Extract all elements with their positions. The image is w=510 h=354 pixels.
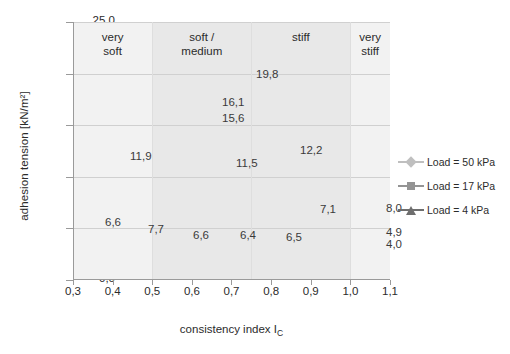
zone-divider-0 — [152, 22, 153, 280]
y-tick-mark-3 — [66, 125, 73, 126]
legend-swatch — [405, 156, 416, 167]
zone-label-2: stiff — [251, 30, 350, 44]
zone-label-3: very stiff — [350, 30, 390, 58]
legend-marker-diamond-icon — [398, 156, 424, 168]
zone-divider-1 — [251, 22, 252, 280]
y-axis-title: adhesion tension [kN/m²] — [18, 36, 30, 276]
x-tick-mark-2 — [152, 280, 153, 285]
legend-item-0[interactable]: Load = 50 kPa — [398, 150, 510, 174]
data-label-13: 6,4 — [240, 229, 256, 241]
x-tick-label-2: 0,5 — [132, 285, 172, 297]
data-label-1: 16,1 — [222, 96, 244, 108]
x-tick-label-3: 0,6 — [172, 285, 212, 297]
gridline-y-5 — [73, 22, 390, 23]
legend-swatch — [407, 182, 415, 190]
zone-divider-2 — [350, 22, 351, 280]
legend-item-2[interactable]: Load = 4 kPa — [398, 198, 510, 222]
data-label-14: 6,5 — [286, 231, 302, 243]
data-label-12: 6,6 — [193, 229, 209, 241]
x-axis-title: consistency index IC — [73, 323, 390, 338]
zone-band-3 — [350, 22, 390, 280]
gridline-y-1 — [73, 228, 390, 229]
y-tick-mark-0 — [66, 280, 73, 281]
x-tick-mark-8 — [390, 280, 391, 285]
x-tick-mark-1 — [113, 280, 114, 285]
legend-label-0: Load = 50 kPa — [427, 156, 495, 168]
data-label-0: 19,8 — [256, 68, 278, 80]
legend-label-1: Load = 17 kPa — [427, 180, 495, 192]
x-tick-label-8: 1,1 — [370, 285, 410, 297]
data-label-7: 7,1 — [320, 203, 336, 215]
x-tick-label-0: 0,3 — [53, 285, 93, 297]
legend-label-2: Load = 4 kPa — [427, 204, 489, 216]
chart-legend: Load = 50 kPaLoad = 17 kPaLoad = 4 kPa — [398, 150, 510, 222]
data-label-5: 12,2 — [300, 144, 322, 156]
zone-band-1 — [152, 22, 251, 280]
legend-swatch — [406, 206, 416, 215]
x-tick-mark-4 — [231, 280, 232, 285]
zone-label-1: soft / medium — [152, 30, 251, 58]
data-label-9: 4,0 — [386, 238, 402, 250]
legend-marker-square-icon — [398, 180, 424, 192]
zone-label-0: very soft — [73, 30, 152, 58]
x-axis-title-main: consistency index I — [180, 323, 277, 335]
x-tick-label-6: 0,9 — [291, 285, 331, 297]
data-label-4: 11,5 — [236, 157, 258, 169]
x-tick-mark-6 — [311, 280, 312, 285]
y-axis-line — [73, 22, 74, 280]
y-tick-mark-4 — [66, 74, 73, 75]
x-tick-mark-0 — [73, 280, 74, 285]
data-label-11: 7,7 — [148, 223, 164, 235]
x-tick-label-1: 0,4 — [93, 285, 133, 297]
data-label-3: 11,9 — [130, 150, 152, 162]
x-tick-label-4: 0,7 — [212, 285, 252, 297]
x-tick-mark-5 — [271, 280, 272, 285]
data-label-10: 6,6 — [105, 216, 121, 228]
plot-area: very softsoft / mediumstiffvery stiff — [73, 22, 390, 280]
data-label-2: 15,6 — [222, 112, 244, 124]
legend-item-1[interactable]: Load = 17 kPa — [398, 174, 510, 198]
x-tick-label-7: 1,0 — [330, 285, 370, 297]
data-label-8: 4,9 — [386, 226, 402, 238]
x-tick-mark-3 — [192, 280, 193, 285]
x-tick-label-5: 0,8 — [251, 285, 291, 297]
y-tick-mark-1 — [66, 228, 73, 229]
x-axis-title-subscript: C — [277, 328, 283, 338]
x-tick-mark-7 — [350, 280, 351, 285]
y-tick-mark-2 — [66, 177, 73, 178]
y-tick-mark-5 — [66, 22, 73, 23]
chart-figure: adhesion tension [kN/m²] 0,05,010,015,02… — [0, 0, 510, 354]
gridline-y-3 — [73, 125, 390, 126]
gridline-y-4 — [73, 74, 390, 75]
gridline-y-2 — [73, 177, 390, 178]
legend-marker-triangle-icon — [398, 204, 424, 216]
